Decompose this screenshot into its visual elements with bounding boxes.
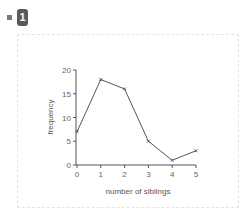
x-tick-label: 1	[99, 170, 104, 179]
y-tick-label: 5	[67, 137, 72, 146]
y-tick-label: 15	[62, 90, 71, 99]
y-tick-label: 20	[62, 66, 71, 75]
x-tick-label: 3	[146, 170, 151, 179]
x-axis-label: number of siblings	[106, 187, 171, 196]
data-markers	[76, 78, 198, 162]
x-tick-label: 4	[170, 170, 175, 179]
y-axis-label: frequency	[46, 99, 55, 134]
line-chart: 01234505101520 number of siblings freque…	[0, 0, 252, 216]
x-tick-label: 0	[75, 170, 80, 179]
x-tick-label: 2	[122, 170, 127, 179]
x-tick-label: 5	[194, 170, 199, 179]
chart-axes: 01234505101520	[62, 66, 199, 179]
y-tick-label: 10	[62, 114, 71, 123]
data-line	[77, 80, 196, 161]
y-tick-label: 0	[67, 161, 72, 170]
